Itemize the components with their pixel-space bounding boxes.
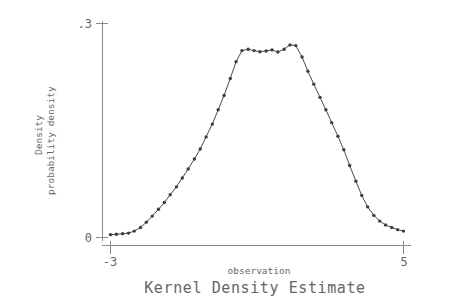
data-point bbox=[151, 214, 154, 217]
data-point bbox=[348, 164, 351, 167]
data-point bbox=[121, 232, 124, 235]
data-point bbox=[175, 185, 178, 188]
kernel-density-plot: .3 0 -3 5 Density probability density ob… bbox=[0, 0, 460, 305]
data-point bbox=[211, 122, 214, 125]
data-point bbox=[396, 228, 399, 231]
figure-title: Kernel Density Estimate bbox=[144, 279, 366, 297]
x-axis-title: observation bbox=[228, 265, 291, 276]
data-point bbox=[258, 50, 261, 53]
data-point bbox=[222, 94, 225, 97]
data-point bbox=[252, 49, 255, 52]
data-point bbox=[127, 231, 130, 234]
data-point bbox=[270, 48, 273, 51]
data-point bbox=[366, 205, 369, 208]
y-axis-title-line1: Density bbox=[33, 115, 44, 155]
data-point bbox=[181, 176, 184, 179]
data-point bbox=[145, 220, 148, 223]
data-point bbox=[288, 43, 291, 46]
data-point bbox=[306, 70, 309, 73]
data-point bbox=[199, 147, 202, 150]
data-point bbox=[282, 47, 285, 50]
data-point bbox=[384, 223, 387, 226]
data-point-markers bbox=[109, 43, 405, 236]
data-point bbox=[312, 82, 315, 85]
data-point bbox=[139, 226, 142, 229]
data-point bbox=[300, 55, 303, 58]
data-point bbox=[372, 214, 375, 217]
y-tick-label-high: .3 bbox=[78, 17, 92, 31]
data-point bbox=[276, 50, 279, 53]
data-point bbox=[390, 226, 393, 229]
data-point bbox=[133, 229, 136, 232]
data-point bbox=[229, 77, 232, 80]
data-point bbox=[193, 157, 196, 160]
data-point bbox=[330, 121, 333, 124]
data-point bbox=[324, 108, 327, 111]
data-point bbox=[204, 135, 207, 138]
data-point bbox=[216, 108, 219, 111]
y-axis-title-line2: probability density bbox=[45, 86, 56, 195]
data-point bbox=[336, 135, 339, 138]
data-point bbox=[402, 229, 405, 232]
data-point bbox=[186, 167, 189, 170]
x-tick-label-low: -3 bbox=[103, 255, 117, 269]
data-point bbox=[247, 47, 250, 50]
data-point bbox=[360, 194, 363, 197]
data-point bbox=[240, 49, 243, 52]
data-point bbox=[234, 60, 237, 63]
density-curve bbox=[111, 45, 404, 235]
data-point bbox=[115, 233, 118, 236]
data-point bbox=[157, 208, 160, 211]
data-point bbox=[264, 49, 267, 52]
data-point bbox=[294, 44, 297, 47]
chart-figure: .3 0 -3 5 Density probability density ob… bbox=[0, 0, 460, 305]
data-point bbox=[169, 193, 172, 196]
data-point bbox=[354, 179, 357, 182]
data-point bbox=[163, 201, 166, 204]
y-tick-label-low: 0 bbox=[85, 231, 92, 245]
x-tick-label-high: 5 bbox=[400, 255, 407, 269]
data-point bbox=[378, 219, 381, 222]
data-point bbox=[109, 233, 112, 236]
data-point bbox=[342, 148, 345, 151]
data-point bbox=[318, 96, 321, 99]
